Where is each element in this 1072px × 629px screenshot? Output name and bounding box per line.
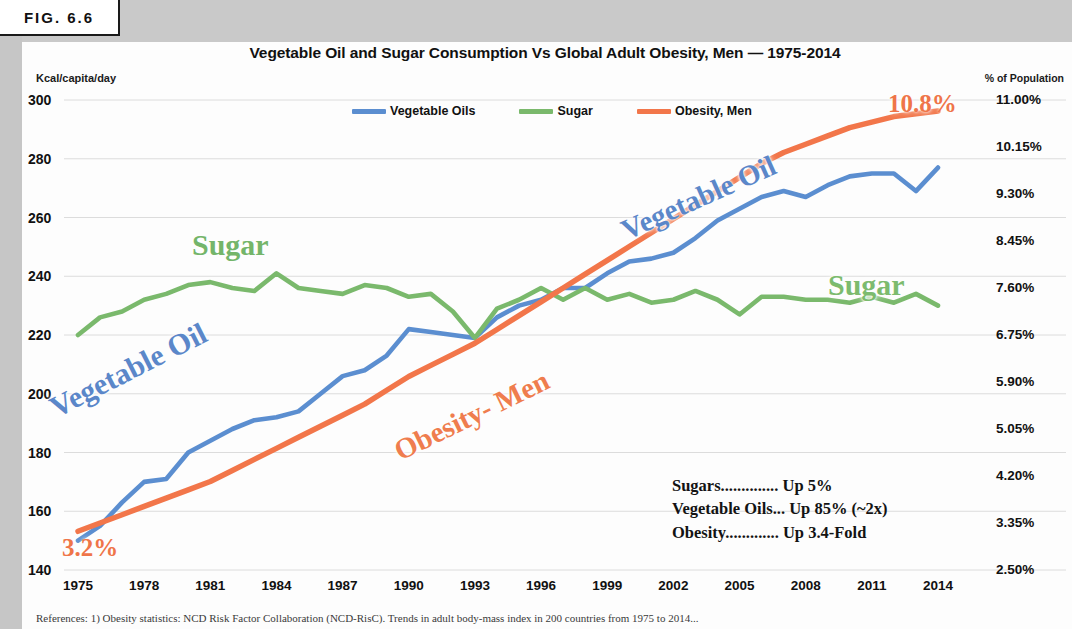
y-axis-right-tick-2-50pct: 2.50% — [996, 563, 1066, 577]
y-axis-left-tick-160: 160 — [28, 504, 68, 518]
annotation-obesity-men: Obesity- Men — [389, 364, 555, 467]
figure-number-tab: FIG. 6.6 — [0, 0, 120, 36]
x-axis-tick-1978: 1978 — [129, 578, 159, 593]
chart-legend: Vegetable OilsSugarObesity, Men — [352, 104, 752, 118]
annotation-sugar-right: Sugar — [828, 268, 905, 302]
y-axis-right-tick-7-60pct: 7.60% — [996, 281, 1066, 295]
y-axis-right-tick-8-45pct: 8.45% — [996, 234, 1066, 248]
obesity-end-value-label: 10.8% — [888, 90, 957, 118]
y-axis-left-tick-260: 260 — [28, 211, 68, 225]
legend-item-sugar[interactable]: Sugar — [519, 104, 592, 118]
x-axis-tick-1996: 1996 — [526, 578, 556, 593]
summary-callout: Sugars.............. Up 5%Vegetable Oils… — [672, 474, 888, 544]
x-axis-tick-1981: 1981 — [195, 578, 225, 593]
legend-label: Vegetable Oils — [390, 104, 475, 118]
chart-figure: Vegetable Oil and Sugar Consumption Vs G… — [0, 0, 1072, 629]
annotation-vegetable-oil-right: Vegetable Oil — [616, 149, 781, 247]
summary-row-0: Sugars.............. Up 5% — [672, 474, 888, 497]
y-axis-right-tick-4-20pct: 4.20% — [996, 469, 1066, 483]
y-axis-right-tick-10-15pct: 10.15% — [996, 140, 1066, 154]
annotation-vegetable-oil-left: Vegetable Oil — [44, 316, 212, 424]
y-axis-right-tick-5-05pct: 5.05% — [996, 422, 1066, 436]
y-axis-left-tick-300: 300 — [28, 93, 68, 107]
legend-label: Sugar — [557, 104, 592, 118]
y-axis-left-tick-140: 140 — [28, 563, 68, 577]
legend-swatch-icon — [519, 109, 553, 114]
summary-row-2: Obesity............. Up 3.4-Fold — [672, 521, 888, 544]
y-axis-right-unit-label: % of Population — [985, 72, 1064, 84]
y-axis-left-tick-280: 280 — [28, 152, 68, 166]
legend-label: Obesity, Men — [675, 104, 752, 118]
y-axis-left-tick-240: 240 — [28, 269, 68, 283]
x-axis-tick-2005: 2005 — [725, 578, 755, 593]
figure-number-label: FIG. 6.6 — [24, 9, 94, 26]
annotation-sugar-left: Sugar — [192, 228, 269, 262]
chart-title: Vegetable Oil and Sugar Consumption Vs G… — [150, 44, 940, 62]
summary-row-1: Vegetable Oils... Up 85% (~2x) — [672, 497, 888, 520]
y-axis-left-unit-label: Kcal/capita/day — [36, 72, 116, 84]
y-axis-left-tick-220: 220 — [28, 328, 68, 342]
y-axis-left-tick-180: 180 — [28, 446, 68, 460]
y-axis-right-tick-11-00pct: 11.00% — [996, 93, 1066, 107]
x-axis-tick-1987: 1987 — [328, 578, 358, 593]
gridlines — [64, 100, 1066, 570]
references-footnote: References: 1) Obesity statistics: NCD R… — [36, 612, 1072, 624]
x-axis-tick-1993: 1993 — [460, 578, 490, 593]
x-axis-tick-1999: 1999 — [592, 578, 622, 593]
y-axis-right-tick-6-75pct: 6.75% — [996, 328, 1066, 342]
series-line-sugar — [78, 273, 938, 338]
y-axis-right-tick-5-90pct: 5.90% — [996, 375, 1066, 389]
y-axis-right-tick-3-35pct: 3.35% — [996, 516, 1066, 530]
x-axis-tick-1990: 1990 — [394, 578, 424, 593]
legend-swatch-icon — [352, 109, 386, 114]
legend-item-obesity-men[interactable]: Obesity, Men — [637, 104, 752, 118]
series-line-obesity-men — [78, 111, 938, 531]
x-axis-tick-2014: 2014 — [923, 578, 953, 593]
legend-item-vegetable-oils[interactable]: Vegetable Oils — [352, 104, 475, 118]
x-axis-tick-1975: 1975 — [63, 578, 93, 593]
y-axis-right-tick-9-30pct: 9.30% — [996, 187, 1066, 201]
x-axis-tick-2002: 2002 — [658, 578, 688, 593]
x-axis-tick-2011: 2011 — [857, 578, 886, 593]
legend-swatch-icon — [637, 109, 671, 114]
obesity-start-value-label: 3.2% — [62, 534, 118, 562]
x-axis-tick-2008: 2008 — [791, 578, 821, 593]
x-axis-tick-1984: 1984 — [261, 578, 291, 593]
